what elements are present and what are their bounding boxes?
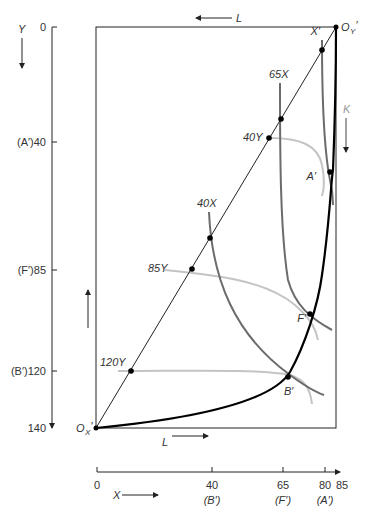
- label-b-prime: B′: [284, 385, 294, 397]
- label-x-prime: X′: [310, 25, 321, 37]
- y-tick-40: (A′)40: [17, 136, 46, 148]
- x-axis-variable-label: X: [112, 489, 121, 501]
- edgeworth-box-diagram: Y 0 (A′)40 (F′)85 (B′)120 140 L L K A′: [0, 0, 369, 512]
- left-y-axis: [52, 27, 57, 428]
- point-f-prime: [307, 311, 313, 317]
- label-40x: 40X: [197, 197, 217, 209]
- x-tick-85: 85: [336, 479, 348, 491]
- isoquant-120y: [118, 371, 312, 404]
- y-tick-140: 140: [28, 422, 46, 434]
- box-diagonal: [96, 27, 336, 428]
- y-axis-variable-label: Y: [18, 23, 26, 35]
- origin-x-dot: [94, 426, 99, 431]
- x-tick-65: 65: [277, 479, 289, 491]
- y-tick-85: (F′)85: [18, 264, 46, 276]
- point-b-prime: [285, 374, 291, 380]
- label-a-prime: A′: [306, 170, 317, 182]
- x-tick-0: 0: [94, 479, 100, 491]
- right-k-label: K: [343, 103, 351, 115]
- isoquant-40x: [209, 212, 324, 395]
- origin-y-dot: [334, 25, 339, 30]
- label-65x: 65X: [269, 68, 289, 80]
- point-a-prime: [327, 169, 333, 175]
- svg-text:O: O: [76, 422, 85, 434]
- isoquant-85y: [165, 270, 318, 340]
- y-tick-0: 0: [40, 21, 46, 33]
- svg-text:X: X: [84, 428, 91, 437]
- label-120y: 120Y: [100, 356, 126, 368]
- label-85y: 85Y: [148, 262, 168, 274]
- x-tick-80: 80: [319, 479, 331, 491]
- origin-y-label: O Y ′: [341, 19, 358, 36]
- label-f-prime: F′: [297, 312, 307, 324]
- bottom-x-axis: [97, 467, 340, 472]
- top-l-label: L: [236, 12, 242, 24]
- isoquant-40y: [270, 138, 324, 196]
- x-tick-40: 40: [206, 479, 218, 491]
- x-sublabel-b-prime: (B′): [204, 494, 221, 506]
- y-tick-120: (B′)120: [11, 365, 46, 377]
- svg-text:′: ′: [356, 19, 358, 31]
- bottom-l-label: L: [162, 436, 168, 448]
- origin-x-label: O X ′: [76, 420, 93, 437]
- svg-text:′: ′: [91, 420, 93, 432]
- x-sublabel-a-prime: (A′): [317, 494, 334, 506]
- x-sublabel-f-prime: (F′): [275, 494, 291, 506]
- svg-text:O: O: [341, 21, 350, 33]
- label-40y: 40Y: [243, 131, 263, 143]
